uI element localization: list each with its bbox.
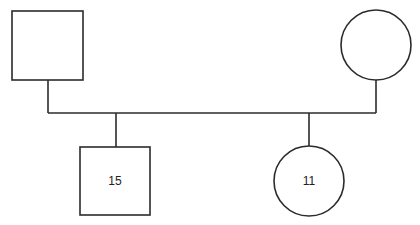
father-square	[12, 11, 83, 80]
pedigree-diagram: 15 11	[0, 0, 420, 225]
mother-circle	[341, 10, 411, 80]
son-label: 15	[108, 174, 122, 188]
daughter-label: 11	[303, 174, 316, 188]
